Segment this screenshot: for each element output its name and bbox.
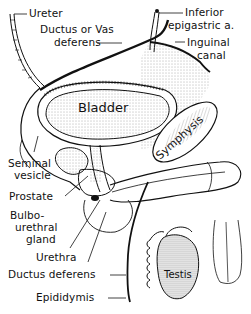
label-bulbo-line3: gland [26,234,56,245]
label-epididymis: Epididymis [36,292,94,303]
label-inferior-epigastric-line1: Inferior [185,7,224,18]
label-seminal-line1: Seminal [8,158,51,169]
testis-label: Testis [163,269,192,280]
label-ductus-vas-line2: deferens [54,37,101,48]
label-bulbo-line1: Bulbo- [10,210,44,221]
label-inferior-epigastric-line2: epigastric a. [168,20,234,31]
label-seminal-line2: vesicle [14,170,51,181]
label-bulbo-line2: urethral [15,222,57,233]
label-ductus-vas-line1: Ductus or Vas [40,24,114,35]
label-ureter: Ureter [29,8,63,19]
label-ductus-deferens: Ductus deferens [8,269,96,280]
label-inguinal-line1: Inguinal [187,37,230,48]
label-urethra: Urethra [36,252,76,263]
anatomy-diagram: Bladder Symphysis [0,0,251,314]
bulbourethral-gland [91,195,99,201]
label-inguinal-line2: canal [197,50,226,61]
ureter-tube [10,14,44,88]
bladder-label: Bladder [78,100,129,115]
testis: Testis [157,227,199,299]
label-prostate: Prostate [9,191,53,202]
prostate-urethra [55,145,115,196]
